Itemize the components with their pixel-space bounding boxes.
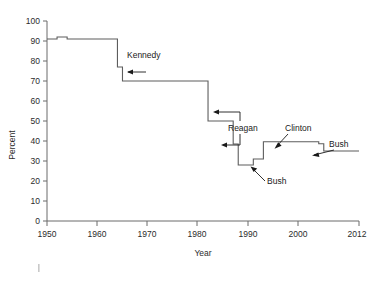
- x-tick-label-2000: 2000: [289, 229, 308, 239]
- annotation-arrow-kennedy: [127, 70, 146, 75]
- chart-container: Percent 100 90 80 70 60 50 40 30 20 10 0: [0, 0, 371, 282]
- x-tick-label-1990: 1990: [239, 229, 258, 239]
- x-tick-label-1960: 1960: [88, 229, 107, 239]
- data-series-line: [47, 37, 359, 165]
- y-tick-label-20: 20: [31, 176, 41, 186]
- x-tick-label-2012: 2012: [348, 229, 367, 239]
- x-tick-label-1950: 1950: [38, 229, 57, 239]
- scan-artifact-mark: [38, 264, 40, 272]
- annotation-label-reagan: Reagan: [228, 123, 258, 133]
- annotation-label-clinton: Clinton: [285, 123, 312, 133]
- annotation-label-bush-early: Bush: [267, 176, 287, 186]
- y-tick-label-80: 80: [31, 56, 41, 66]
- y-tick-label-40: 40: [31, 136, 41, 146]
- x-axis-title: Year: [194, 248, 211, 258]
- y-tick-label-60: 60: [31, 96, 41, 106]
- annotation-label-bush-late: Bush: [329, 139, 349, 149]
- y-tick-label-90: 90: [31, 36, 41, 46]
- annotation-label-kennedy: Kennedy: [127, 50, 161, 60]
- y-tick-label-70: 70: [31, 76, 41, 86]
- x-tick-label-1970: 1970: [138, 229, 157, 239]
- y-axis-ticks: [43, 21, 47, 221]
- annotation-arrow-reagan-lower: [221, 134, 240, 147]
- y-tick-label-0: 0: [35, 216, 40, 226]
- annotation-arrow-reagan-upper: [213, 110, 240, 121]
- y-tick-label-50: 50: [31, 116, 41, 126]
- tax-rate-line-chart: Percent 100 90 80 70 60 50 40 30 20 10 0: [0, 0, 371, 282]
- y-tick-label-10: 10: [31, 196, 41, 206]
- annotation-arrow-bush-early: [251, 167, 266, 182]
- x-tick-label-1980: 1980: [188, 229, 207, 239]
- y-axis-title: Percent: [7, 130, 17, 160]
- y-tick-label-100: 100: [26, 16, 40, 26]
- annotation-arrow-bush-late: [312, 150, 334, 157]
- x-axis-ticks: [47, 221, 359, 226]
- y-tick-label-30: 30: [31, 156, 41, 166]
